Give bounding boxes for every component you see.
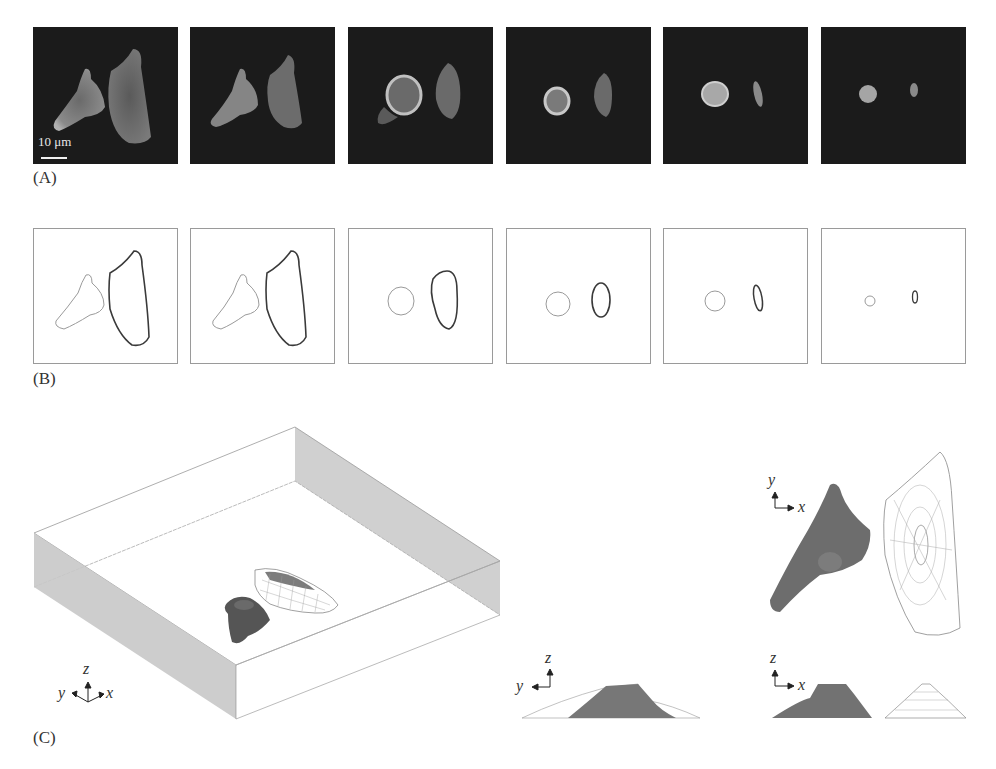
top-view-axis-y: y bbox=[768, 471, 775, 489]
top-view-axis-x: x bbox=[798, 498, 805, 516]
iso-axis-z: z bbox=[83, 660, 89, 678]
side-xz-axis-x: x bbox=[798, 676, 805, 694]
top-view-axis-icon bbox=[772, 492, 794, 511]
iso-axis-y: y bbox=[58, 684, 65, 702]
side-xz-axis-icon bbox=[772, 670, 794, 689]
iso-axis-x: x bbox=[106, 684, 113, 702]
side-xz-axis-z: z bbox=[770, 649, 776, 667]
panel-label-c: (C) bbox=[33, 728, 56, 748]
iso-3d-view bbox=[0, 0, 996, 769]
side-yz-axis-y: y bbox=[516, 677, 523, 695]
side-yz-axis-z: z bbox=[545, 649, 551, 667]
side-yz-axis-icon bbox=[532, 669, 553, 690]
iso-axis-icon bbox=[72, 682, 104, 702]
